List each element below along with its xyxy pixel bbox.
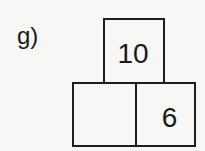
problem-label: g) [17, 22, 38, 50]
pyramid-bottom-right-cell: 6 [135, 82, 196, 147]
pyramid-bottom-right-value: 6 [162, 102, 178, 134]
pyramid-bottom-left-cell[interactable] [72, 82, 137, 147]
pyramid-top-cell: 10 [103, 18, 165, 84]
pyramid-top-value: 10 [117, 38, 148, 70]
